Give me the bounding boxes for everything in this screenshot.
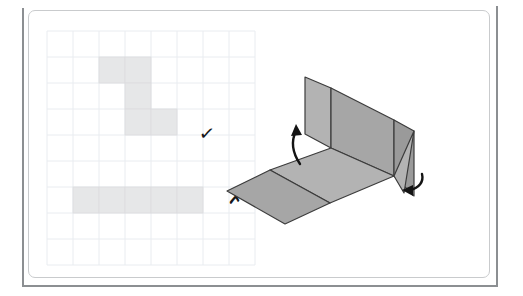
partially-folded-box-illustration — [0, 0, 523, 296]
figure-canvas: ✓ ✗ — [0, 0, 523, 296]
fold-up-arrow-head — [291, 124, 302, 136]
box-face-back-left-wall — [305, 77, 331, 148]
box-faces — [227, 77, 414, 224]
